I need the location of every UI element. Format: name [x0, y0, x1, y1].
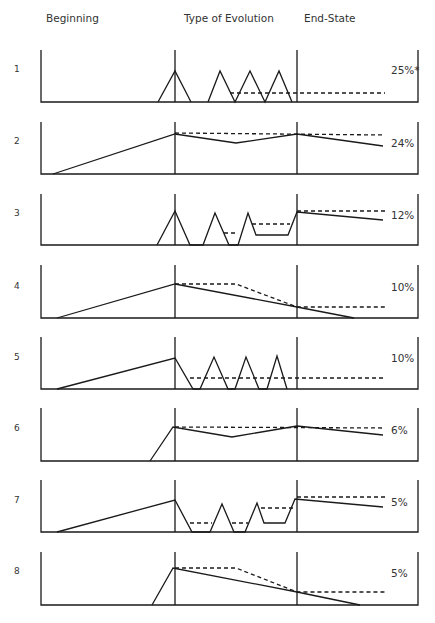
row-7-frame: [41, 480, 418, 532]
evolution-diagram: [0, 0, 435, 623]
row-2-frame: [41, 122, 418, 174]
row-8-frame: [41, 552, 418, 605]
row-3-frame: [41, 194, 418, 245]
row-1-frame: [41, 50, 418, 102]
row-6-frame: [41, 408, 418, 461]
row-4-frame: [41, 265, 418, 318]
row-5-frame: [41, 337, 418, 389]
